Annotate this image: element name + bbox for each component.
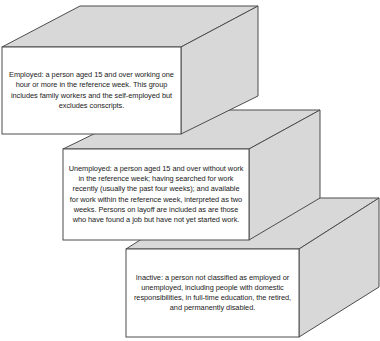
diagram-canvas: Employed: a person aged 15 and over work…: [0, 0, 380, 341]
box-employed-label: Employed: a person aged 15 and over work…: [2, 47, 181, 134]
box-inactive-label: Inactive: a person not classified as emp…: [126, 249, 299, 337]
box-inactive-text: Inactive: a person not classified as emp…: [131, 273, 294, 314]
box-unemployed-label: Unemployed: a person aged 15 and over wi…: [63, 149, 249, 240]
box-unemployed-text: Unemployed: a person aged 15 and over wi…: [68, 164, 244, 225]
box-employed-text: Employed: a person aged 15 and over work…: [7, 70, 176, 111]
